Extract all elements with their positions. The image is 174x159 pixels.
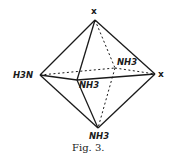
label-back-vertex: NH3 (117, 57, 137, 67)
dashed-edges (40, 20, 155, 128)
label-bottom-vertex: NH3 (89, 131, 109, 141)
edge-top-back (95, 20, 115, 68)
label-top-vertex: x (91, 6, 97, 16)
edge-left-back (40, 68, 115, 75)
label-left-vertex: H3N (13, 70, 33, 80)
edge-right-bottom (98, 74, 155, 128)
solid-edges (40, 20, 155, 128)
label-front-vertex: NH3 (79, 80, 99, 90)
figure-caption: Fig. 3. (72, 142, 104, 153)
octahedron-diagram: x H3N x NH3 NH3 NH3 Fig. 3. (0, 0, 174, 159)
label-right-vertex: x (158, 69, 164, 79)
